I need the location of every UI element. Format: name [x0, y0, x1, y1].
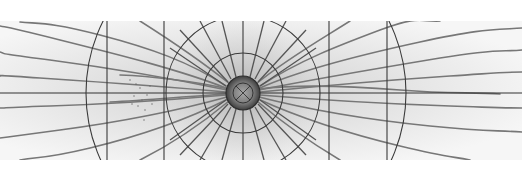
retina-image — [0, 0, 522, 185]
optic-disc — [226, 76, 260, 110]
retina-drawing — [0, 0, 525, 185]
retina-svg — [0, 0, 525, 185]
